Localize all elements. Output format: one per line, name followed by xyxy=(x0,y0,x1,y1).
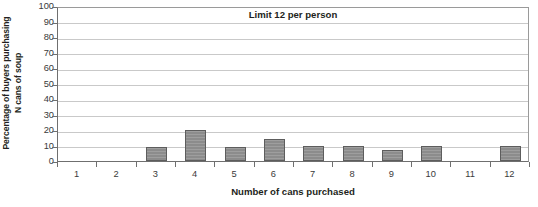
x-axis-tick-label: 5 xyxy=(214,169,253,180)
y-axis-tick-mark xyxy=(52,23,57,24)
bar xyxy=(303,146,324,162)
x-axis-tick-label: 9 xyxy=(372,169,411,180)
x-axis-tick-mark xyxy=(450,162,451,167)
x-axis-tick-mark xyxy=(332,162,333,167)
y-axis-tick-label: 20 xyxy=(28,126,54,135)
y-axis-tick-label: 60 xyxy=(28,64,54,73)
y-axis-tick-label: 100 xyxy=(28,2,54,11)
y-axis-tick-label: 90 xyxy=(28,18,54,27)
x-axis-tick-label: 6 xyxy=(254,169,293,180)
x-axis-tick-mark xyxy=(529,162,530,167)
x-axis-tick-mark xyxy=(490,162,491,167)
y-axis-tick-label: 80 xyxy=(28,33,54,42)
y-axis-title-line2: N cans of soup xyxy=(13,0,25,166)
x-axis-tick-mark xyxy=(214,162,215,167)
chart-title: Limit 12 per person xyxy=(57,9,529,20)
x-axis-tick-label: 3 xyxy=(136,169,175,180)
x-axis-tick-mark xyxy=(57,162,58,167)
y-axis-title: Percentage of buyers purchasing N cans o… xyxy=(1,0,24,166)
x-axis-tick-mark xyxy=(136,162,137,167)
x-axis-tick-mark xyxy=(411,162,412,167)
x-axis-tick-mark xyxy=(293,162,294,167)
y-axis-tick-labels: 1009080706050403020100 xyxy=(26,0,54,168)
y-axis-tick-label: 40 xyxy=(28,95,54,104)
bar xyxy=(146,147,167,161)
x-axis-tick-label: 12 xyxy=(490,169,529,180)
x-axis-tick-label: 2 xyxy=(96,169,135,180)
y-axis-tick-label: 50 xyxy=(28,80,54,89)
x-axis-tick-label: 8 xyxy=(332,169,371,180)
soup-purchase-bar-chart: Percentage of buyers purchasing N cans o… xyxy=(0,0,538,207)
bar xyxy=(225,147,246,161)
x-axis-tick-mark xyxy=(372,162,373,167)
bar xyxy=(382,150,403,161)
bar xyxy=(185,130,206,161)
y-axis-title-container: Percentage of buyers purchasing N cans o… xyxy=(0,0,28,168)
y-axis-tick-label: 0 xyxy=(28,157,54,166)
x-axis-tick-label: 7 xyxy=(293,169,332,180)
y-axis-tick-mark xyxy=(52,116,57,117)
plot-area xyxy=(57,7,529,162)
x-axis-title: Number of cans purchased xyxy=(57,186,529,197)
x-axis-tick-mark xyxy=(175,162,176,167)
x-axis-tick-mark xyxy=(254,162,255,167)
x-axis-tick-label: 4 xyxy=(175,169,214,180)
y-axis-tick-mark xyxy=(52,38,57,39)
y-axis-tick-label: 70 xyxy=(28,49,54,58)
y-axis-title-line1: Percentage of buyers purchasing xyxy=(1,17,11,150)
y-axis-tick-label: 10 xyxy=(28,142,54,151)
bar-series xyxy=(58,8,528,161)
bar xyxy=(343,146,364,162)
y-axis-tick-mark xyxy=(52,147,57,148)
bar xyxy=(421,146,442,162)
y-axis-tick-mark xyxy=(52,100,57,101)
y-axis-tick-mark xyxy=(52,7,57,8)
y-axis-tick-mark xyxy=(52,54,57,55)
y-axis-tick-mark xyxy=(52,85,57,86)
x-axis-tick-label: 10 xyxy=(411,169,450,180)
x-axis-tick-labels: 123456789101112 xyxy=(57,169,529,182)
bar xyxy=(500,146,521,162)
y-axis-tick-mark xyxy=(52,69,57,70)
x-axis-tick-label: 11 xyxy=(450,169,489,180)
y-axis-tick-label: 30 xyxy=(28,111,54,120)
x-axis-tick-mark xyxy=(96,162,97,167)
y-axis-tick-mark xyxy=(52,131,57,132)
x-axis-tick-label: 1 xyxy=(57,169,96,180)
bar xyxy=(264,139,285,161)
